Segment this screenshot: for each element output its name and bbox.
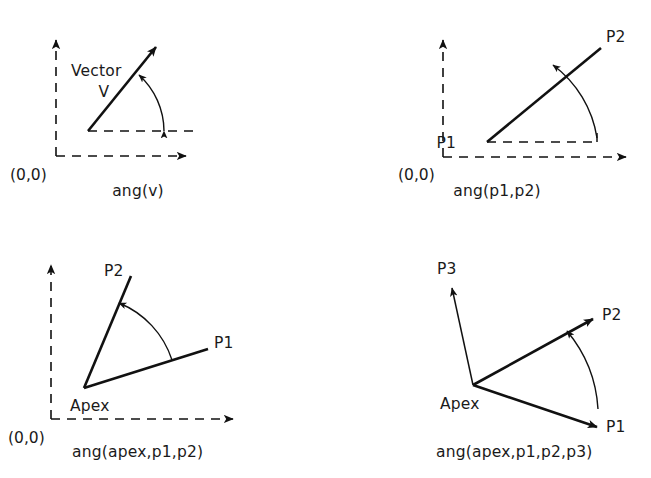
apex-label-panel3: Apex: [70, 397, 110, 415]
p2-label-panel2: P2: [606, 28, 626, 46]
panel-ang-p1-p2: P2 P1 (0,0) ang(p1,p2): [398, 28, 626, 200]
p1-p2-ray: [487, 48, 601, 142]
origin-label-panel2: (0,0): [398, 166, 435, 184]
apex-p1-ray: [84, 349, 208, 388]
origin-label-panel1: (0,0): [10, 166, 47, 184]
apex-p2-ray: [84, 276, 131, 388]
apex-label-panel4: Apex: [440, 395, 480, 413]
panel-ang-apex-p1-p2-p3: P3 P2 P1 Apex ang(apex,p1,p2,p3): [436, 260, 626, 461]
vector-word-label: Vector: [71, 62, 122, 80]
angle-arc-panel3: [119, 303, 172, 360]
p2-label-panel3: P2: [104, 262, 124, 280]
apex-p2-ray-panel4: [473, 319, 593, 385]
angle-arc-panel4: [567, 331, 598, 409]
caption-panel2: ang(p1,p2): [453, 182, 541, 200]
origin-label-panel3: (0,0): [8, 429, 45, 447]
p3-label-panel4: P3: [437, 260, 457, 278]
apex-p1-ray-panel4: [473, 385, 597, 427]
vector-symbol-label: V: [99, 83, 110, 101]
caption-panel4: ang(apex,p1,p2,p3): [436, 443, 593, 461]
p2-label-panel4: P2: [602, 306, 622, 324]
apex-p3-ray: [452, 288, 473, 385]
angle-arc-panel1: [139, 75, 164, 131]
angle-conventions-figure: Vector V (0,0) ang(v) P2 P1 (0,0) ang(p1…: [0, 0, 651, 478]
caption-panel3: ang(apex,p1,p2): [72, 443, 203, 461]
p1-label-panel4: P1: [606, 418, 626, 436]
angle-arc-panel2: [553, 65, 597, 138]
figure-canvas: Vector V (0,0) ang(v) P2 P1 (0,0) ang(p1…: [0, 0, 651, 478]
p1-label-panel2: P1: [436, 134, 456, 152]
p1-label-panel3: P1: [214, 334, 234, 352]
panel-ang-apex-p1-p2: P2 P1 Apex (0,0) ang(apex,p1,p2): [8, 262, 234, 461]
caption-panel1: ang(v): [112, 182, 164, 200]
panel-ang-v: Vector V (0,0) ang(v): [10, 40, 194, 200]
